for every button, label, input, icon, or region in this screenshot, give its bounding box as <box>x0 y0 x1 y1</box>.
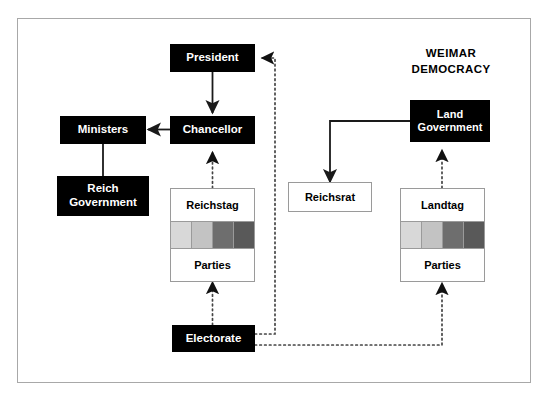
node-reich-government-label-line-2: Government <box>69 196 137 210</box>
wire-land-government-to-reichsrat <box>330 121 410 182</box>
landtag-party-band-2 <box>422 222 443 248</box>
node-president[interactable]: President <box>170 44 255 72</box>
node-land-government-label-line-2: Government <box>418 121 483 134</box>
node-reichsrat-label: Reichsrat <box>305 191 355 204</box>
reichstag-party-bands <box>171 221 254 249</box>
node-reich-government-label-line-1: Reich <box>87 182 118 196</box>
node-chancellor-label: Chancellor <box>183 123 242 137</box>
reichstag-party-band-3 <box>213 222 234 248</box>
weimar-democracy-diagram: WEIMAR DEMOCRACY President Chancellor Mi… <box>0 0 547 400</box>
reichstag-party-band-4 <box>234 222 254 248</box>
landtag-party-band-1 <box>401 222 422 248</box>
node-land-government-label-line-1: Land <box>437 108 463 121</box>
diagram-title-line-2: DEMOCRACY <box>396 62 506 78</box>
landtag-party-band-3 <box>443 222 464 248</box>
node-reichstag[interactable]: Reichstag Parties <box>170 188 255 282</box>
node-landtag[interactable]: Landtag Parties <box>400 188 485 282</box>
wire-electorate-to-president <box>255 58 275 334</box>
reichstag-party-band-2 <box>192 222 213 248</box>
landtag-party-band-4 <box>464 222 484 248</box>
node-reichstag-parties-label: Parties <box>171 249 254 281</box>
node-electorate-label: Electorate <box>186 332 242 346</box>
diagram-title-line-1: WEIMAR <box>396 46 506 62</box>
node-reichstag-label: Reichstag <box>171 189 254 221</box>
node-ministers-label: Ministers <box>78 123 129 137</box>
node-landtag-parties-label: Parties <box>401 249 484 281</box>
node-reichsrat[interactable]: Reichsrat <box>288 182 372 212</box>
node-landtag-label: Landtag <box>401 189 484 221</box>
node-chancellor[interactable]: Chancellor <box>170 116 255 144</box>
node-land-government[interactable]: Land Government <box>410 100 490 142</box>
node-electorate[interactable]: Electorate <box>172 325 255 352</box>
landtag-party-bands <box>401 221 484 249</box>
reichstag-party-band-1 <box>171 222 192 248</box>
node-ministers[interactable]: Ministers <box>60 116 146 144</box>
diagram-title: WEIMAR DEMOCRACY <box>396 46 506 77</box>
wire-electorate-to-landtag <box>255 283 442 345</box>
node-president-label: President <box>186 51 238 65</box>
node-reich-government[interactable]: Reich Government <box>57 176 149 216</box>
